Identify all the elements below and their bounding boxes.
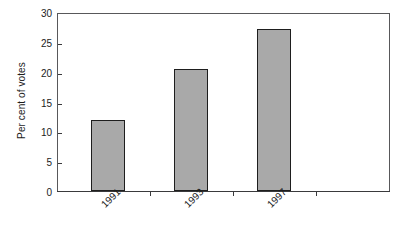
y-axis-tick-label: 5 — [30, 157, 52, 168]
y-axis-tick-label: 30 — [30, 8, 52, 19]
y-axis-tick-label: 20 — [30, 67, 52, 78]
y-axis-tick-label: 15 — [30, 97, 52, 108]
y-axis-tick-label: 0 — [30, 187, 52, 198]
y-axis-tick-label: 25 — [30, 37, 52, 48]
y-axis-tick-mark — [58, 104, 62, 105]
y-axis-tick-mark — [58, 74, 62, 75]
y-axis-tick-mark — [58, 163, 62, 164]
bar — [257, 29, 291, 191]
bar — [91, 120, 125, 191]
bar-chart-figure: Per cent of votes 051015202530 199119931… — [0, 0, 402, 236]
bar — [174, 69, 208, 191]
y-axis-tick-mark — [58, 44, 62, 45]
y-axis-title: Per cent of votes — [16, 41, 27, 161]
plot-area — [57, 13, 390, 192]
y-axis-tick-mark — [58, 133, 62, 134]
x-axis-tick-labels: 199119931997 — [57, 192, 390, 236]
y-axis-tick-labels: 051015202530 — [26, 0, 52, 236]
y-axis-tick-label: 10 — [30, 127, 52, 138]
